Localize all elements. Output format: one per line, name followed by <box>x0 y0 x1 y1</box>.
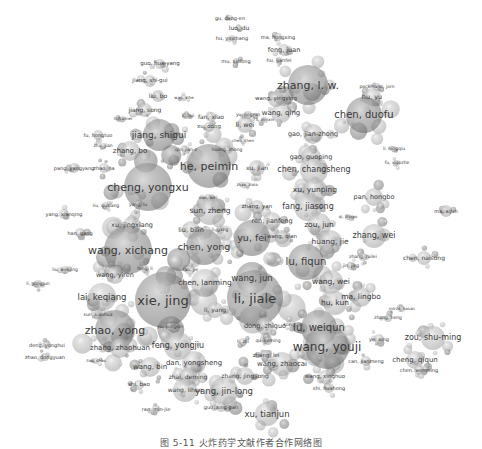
author-label[interactable]: jiang, shi-gui <box>132 78 167 84</box>
author-label[interactable]: li, gang <box>212 228 229 233</box>
author-label[interactable]: ren, jianfeng <box>251 218 292 225</box>
author-label[interactable]: liu, bo <box>149 93 167 99</box>
author-label[interactable]: lai, keqiang <box>78 293 127 302</box>
author-label[interactable]: can, jianmeng <box>348 359 383 364</box>
author-label[interactable]: xu, jingxiang <box>111 222 153 229</box>
author-label[interactable]: jiang, song <box>129 107 162 113</box>
author-label[interactable]: fu, xiaozhe <box>385 161 410 166</box>
author-label[interactable]: zhao, yong <box>85 325 145 336</box>
author-label[interactable]: li, zhi <box>237 340 249 345</box>
author-label[interactable]: chen, chen <box>232 139 254 143</box>
author-label[interactable]: wang, jun <box>231 274 272 283</box>
author-label[interactable]: wang, yingying <box>255 96 297 102</box>
author-label[interactable]: yang, xianqing <box>45 212 82 217</box>
author-label[interactable]: pang, yangyang <box>54 166 95 171</box>
author-label[interactable]: lu, fiqun <box>286 257 327 267</box>
author-label[interactable]: fu, hongtuo <box>84 133 113 138</box>
author-label[interactable]: dong, zhiguo <box>244 323 286 330</box>
author-label[interactable]: mu, xiolong <box>221 59 250 64</box>
author-label[interactable]: ma, hongxing <box>261 35 295 40</box>
author-label[interactable]: zhao, dongyuan <box>25 355 65 360</box>
author-label[interactable]: li, yongjun <box>26 282 49 287</box>
author-label[interactable]: chen, naisong <box>403 255 445 261</box>
author-label[interactable]: li, bui <box>182 114 194 119</box>
author-label[interactable]: wang, zhaocai <box>257 361 307 368</box>
author-label[interactable]: chen, yong <box>178 242 231 252</box>
author-label[interactable]: wang, wei <box>312 278 350 286</box>
author-label[interactable]: dan, yongsheng <box>166 360 222 367</box>
author-label[interactable]: guo, hua-yang <box>140 61 180 67</box>
author-label[interactable]: zhao, na <box>93 166 114 171</box>
author-label[interactable]: wang, xichang <box>88 245 168 256</box>
author-label[interactable]: jiang, shigui <box>132 131 186 140</box>
author-label[interactable]: li, haimei <box>114 117 132 121</box>
author-label[interactable]: chen, duofu <box>334 110 393 120</box>
author-label[interactable]: qu, keming <box>255 339 280 344</box>
author-label[interactable]: ye, xing <box>369 337 389 342</box>
author-label[interactable]: qin, jian-z <box>175 148 197 153</box>
author-label[interactable]: guo, xing-pan <box>204 405 238 410</box>
author-label[interactable]: zhang, bo <box>113 148 147 155</box>
author-label[interactable]: shi, huahong <box>313 386 345 391</box>
author-label[interactable]: li, jiale <box>234 292 276 305</box>
author-label[interactable]: chen, wenming <box>400 368 438 373</box>
author-label[interactable]: liu, bilin <box>178 227 204 234</box>
author-label[interactable]: li, yang <box>204 307 226 313</box>
author-label[interactable]: liu, wenjing <box>52 268 78 273</box>
author-label[interactable]: gao, guoping <box>290 154 333 161</box>
author-label[interactable]: gu, dang-en <box>215 16 245 21</box>
author-label[interactable]: luo, du <box>229 25 250 31</box>
author-label[interactable]: feng, juan <box>268 47 301 54</box>
author-label[interactable]: wang, qing <box>262 110 301 117</box>
author-label[interactable]: fan, xiao <box>198 114 224 120</box>
author-label[interactable]: yang, lu <box>129 203 147 208</box>
author-label[interactable]: wang, bin <box>133 364 167 371</box>
author-label[interactable]: wan, xihe <box>174 96 193 100</box>
author-label[interactable]: zhang, wei <box>352 232 395 240</box>
author-label[interactable]: wang, youji <box>293 341 362 353</box>
author-label[interactable]: shi, bao <box>128 382 150 388</box>
author-label[interactable]: chen, lanming <box>178 279 231 287</box>
author-label[interactable]: chen, changsheng <box>277 166 350 174</box>
author-label[interactable]: yang, jin-long <box>195 387 253 396</box>
author-label[interactable]: zhang, heng <box>374 316 402 321</box>
author-label[interactable]: hu, yu <box>362 94 382 101</box>
author-label[interactable]: zou, shu-ming <box>405 334 462 342</box>
author-label[interactable]: xu, jian <box>246 165 268 171</box>
author-label[interactable]: huang, zhong <box>212 148 243 153</box>
author-label[interactable]: liu, quxiang <box>93 204 119 209</box>
author-label[interactable]: gao, jian-zhong <box>288 131 338 138</box>
author-label[interactable]: li, xin-xin <box>256 118 274 122</box>
author-label[interactable]: wang, xinghuo <box>305 374 345 380</box>
author-label[interactable]: zhai, deming <box>169 374 208 380</box>
author-label[interactable]: pan, hongbo <box>354 194 395 201</box>
author-label[interactable]: xu, tianjun <box>244 410 289 419</box>
author-label[interactable]: ma, lingbo <box>341 293 381 301</box>
author-label[interactable]: fang, jiasong <box>282 203 334 211</box>
author-label[interactable]: zou, jun <box>304 221 334 229</box>
author-label[interactable]: jin, jing <box>343 264 359 269</box>
author-label[interactable]: zhang, zhaohuan <box>90 345 150 352</box>
author-label[interactable]: yu, fei <box>237 233 267 243</box>
author-label[interactable]: rao, min-jie <box>142 407 170 412</box>
author-label[interactable]: zhang, yan <box>242 204 272 210</box>
author-label[interactable]: zhao, zixia <box>236 183 257 187</box>
author-label[interactable]: qi, zhirao <box>339 215 357 219</box>
author-label[interactable]: he, peimin <box>180 161 238 172</box>
author-label[interactable]: xie, jing <box>137 294 188 307</box>
author-label[interactable]: cao, jie <box>182 268 198 273</box>
author-label[interactable]: cheng, yongxu <box>107 182 188 193</box>
author-label[interactable]: wang, yiren <box>96 272 134 279</box>
author-label[interactable]: li, ningqiu <box>383 147 405 152</box>
author-label[interactable]: zhang, lei <box>253 353 280 359</box>
author-label[interactable]: mirzo, hasan <box>389 307 415 311</box>
author-label[interactable]: feng, yongjiu <box>152 342 204 350</box>
author-label[interactable]: peckmann, jorn <box>359 85 394 90</box>
author-label[interactable]: han, gang <box>67 231 92 236</box>
author-label[interactable]: sun, xiaohua <box>84 313 113 318</box>
author-label[interactable]: wang, qian <box>267 234 297 240</box>
author-label[interactable]: sun, zheng <box>189 207 230 215</box>
author-label[interactable]: yu, yongsin <box>157 325 183 330</box>
author-label[interactable]: deng, yonghui <box>29 343 65 348</box>
author-label[interactable]: zhang, jingsong <box>221 373 268 379</box>
